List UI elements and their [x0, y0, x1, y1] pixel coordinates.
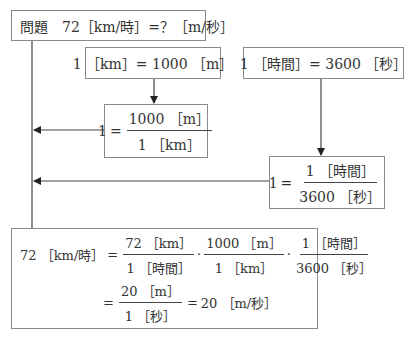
solution-box: 72 ［km/時］ = 72 ［km］ 1 ［時間］ · 1000 ［m］ 1 … [11, 228, 318, 329]
solution-lhs: 72 ［km/時］ [20, 245, 104, 264]
numerator: 72 ［km］ [123, 233, 194, 255]
solution-line-2: = 20 ［m］ 1 ［秒］ = 20 ［m/秒］ [100, 281, 277, 325]
numerator: 20 ［m］ [119, 281, 182, 303]
factor-3: 1 ［時間］ 3600 ［秒］ [294, 233, 374, 277]
solution-result: 20 ［m/秒］ [201, 293, 277, 312]
equals-sign: = [110, 123, 122, 139]
ratio-lhs: 1 [98, 123, 107, 139]
problem-box: 問題 72［km/時］=？［m/秒］ [11, 10, 206, 41]
equals-sign: = [103, 295, 114, 310]
multiply-dot: · [287, 247, 291, 262]
km-ratio-box: 1 = 1000 ［m］ 1 ［km］ [104, 104, 208, 158]
time-conversion-text: 1 ［時間］= 3600 ［秒］ [240, 53, 408, 73]
denominator: 1 ［km］ [136, 131, 203, 154]
ratio-lhs: 1 [269, 175, 278, 191]
factor-2: 1000 ［m］ 1 ［km］ [204, 233, 284, 277]
numerator: 1 ［時間］ [304, 160, 377, 183]
km-conversion-text: 1 ［km］= 1000 ［m］ [73, 53, 234, 73]
solution-line-1: 72 ［km/時］ = 72 ［km］ 1 ［時間］ · 1000 ［m］ 1 … [20, 233, 376, 277]
step2-fraction: 20 ［m］ 1 ［秒］ [119, 281, 182, 325]
time-conversion-box: 1 ［時間］= 3600 ［秒］ [243, 47, 404, 79]
time-ratio-box: 1 = 1 ［時間］ 3600 ［秒］ [269, 156, 385, 209]
multiply-dot: · [197, 247, 201, 262]
factor-1: 72 ［km］ 1 ［時間］ [123, 233, 194, 277]
problem-label: 問題 [20, 16, 48, 36]
numerator: 1000 ［m］ [204, 233, 284, 255]
denominator: 1 ［時間］ [124, 255, 192, 277]
equals-sign: = [107, 247, 118, 262]
km-ratio-fraction: 1000 ［m］ 1 ［km］ [127, 108, 212, 154]
denominator: 1 ［秒］ [123, 303, 178, 325]
equals-sign: = [281, 175, 293, 191]
numerator: 1000 ［m］ [127, 108, 212, 131]
denominator: 3600 ［秒］ [294, 255, 374, 277]
denominator: 3600 ［秒］ [297, 183, 383, 206]
numerator: 1 ［時間］ [300, 233, 368, 255]
equals-sign: = [187, 295, 198, 310]
denominator: 1 ［km］ [213, 255, 276, 277]
km-conversion-box: 1 ［km］= 1000 ［m］ [85, 47, 221, 79]
time-ratio-fraction: 1 ［時間］ 3600 ［秒］ [297, 160, 383, 206]
problem-expression: 72［km/時］=？［m/秒］ [62, 16, 234, 36]
